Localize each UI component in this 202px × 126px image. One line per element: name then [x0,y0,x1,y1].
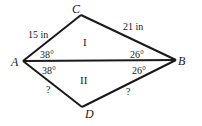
angle-label-cab: 38° [40,49,54,60]
vertex-label-a: A [10,55,19,69]
region-label-ii: II [80,74,88,86]
vertex-label-d: D [84,107,94,121]
side-label-cb: 21 in [123,21,143,32]
kite-diagram: A B C D 15 in 21 in ? ? 38° 38° 26° 26° … [0,0,202,126]
vertex-label-b: B [178,54,186,68]
region-label-i: I [83,36,87,48]
diagonal-ab [23,60,176,61]
vertex-label-c: C [72,2,81,16]
angle-label-bad: 38° [42,65,56,76]
side-label-ad: ? [46,84,51,95]
angle-label-abd: 26° [132,65,146,76]
angle-label-cba: 26° [130,49,144,60]
side-label-ac: 15 in [28,29,48,40]
side-db [82,60,176,107]
side-label-db: ? [126,86,131,97]
